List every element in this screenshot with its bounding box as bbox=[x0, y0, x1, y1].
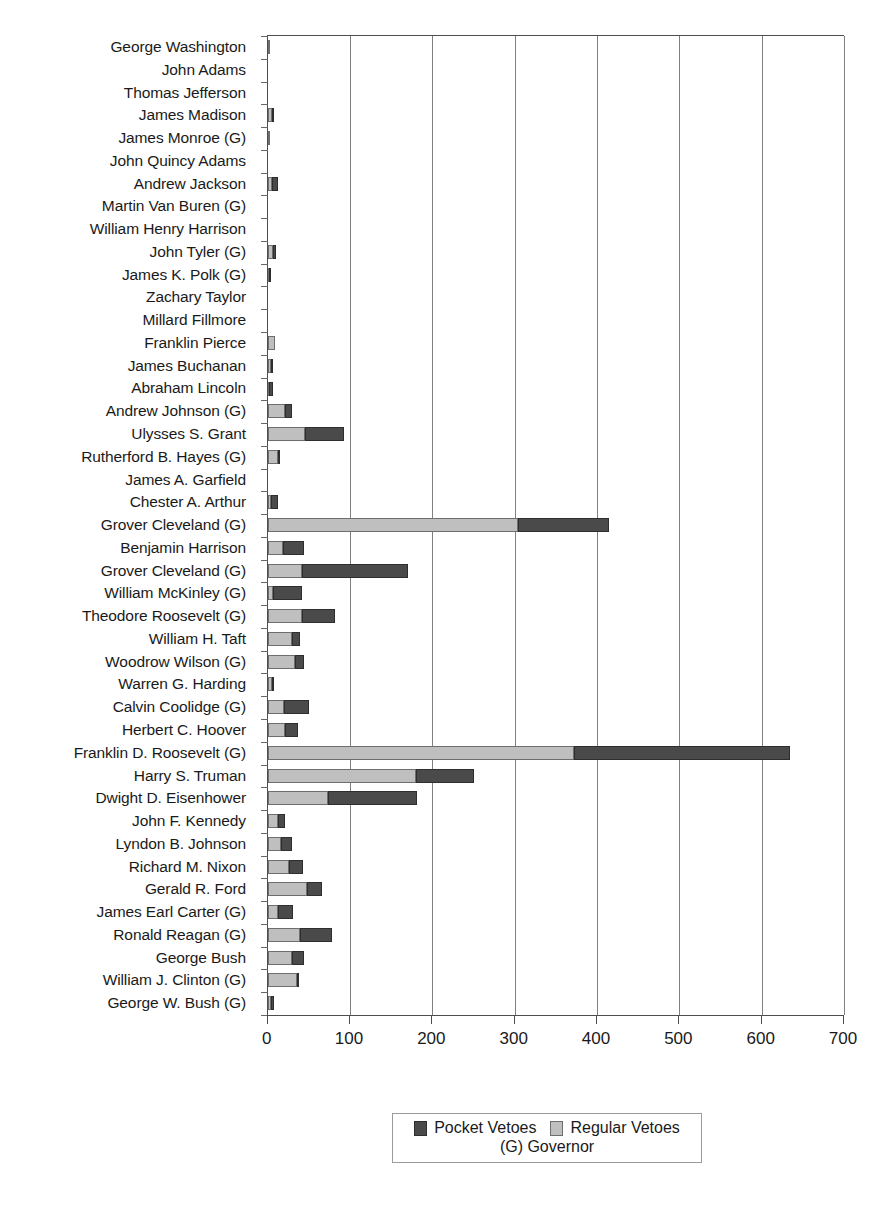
bar-row bbox=[268, 628, 844, 651]
bar-segment-pocket-vetoes bbox=[271, 996, 274, 1010]
category-label: George W. Bush (G) bbox=[0, 992, 252, 1015]
legend-item-regular-vetoes: Regular Vetoes bbox=[550, 1119, 679, 1137]
bar-segment-pocket-vetoes bbox=[273, 586, 303, 600]
y-axis-tick bbox=[261, 833, 268, 834]
y-axis-tick bbox=[261, 469, 268, 470]
bar-segment-regular-vetoes bbox=[268, 882, 308, 896]
bar-segment-regular-vetoes bbox=[268, 951, 292, 965]
veto-chart: George WashingtonJohn AdamsThomas Jeffer… bbox=[0, 0, 893, 1214]
bar-segment-regular-vetoes bbox=[268, 541, 284, 555]
bar-row bbox=[268, 651, 844, 674]
category-label: Grover Cleveland (G) bbox=[0, 560, 252, 583]
y-axis-tick bbox=[261, 241, 268, 242]
y-axis-tick bbox=[261, 605, 268, 606]
bar-row bbox=[268, 127, 844, 150]
category-label: George Bush bbox=[0, 947, 252, 970]
bar-row bbox=[268, 36, 844, 59]
y-axis-tick bbox=[261, 423, 268, 424]
x-axis-tick bbox=[514, 1015, 515, 1024]
y-axis-tick bbox=[261, 332, 268, 333]
category-label: James K. Polk (G) bbox=[0, 264, 252, 287]
bar-segment-pocket-vetoes bbox=[295, 655, 304, 669]
bar-segment-pocket-vetoes bbox=[271, 359, 273, 373]
x-axis-tick bbox=[678, 1015, 679, 1024]
x-axis-tick-label: 600 bbox=[726, 1029, 796, 1049]
y-axis-tick bbox=[261, 127, 268, 128]
legend-label-pocket: Pocket Vetoes bbox=[434, 1119, 536, 1137]
x-axis-tick-label: 100 bbox=[314, 1029, 384, 1049]
category-label: Herbert C. Hoover bbox=[0, 719, 252, 742]
category-label: Millard Fillmore bbox=[0, 309, 252, 332]
y-axis-tick bbox=[261, 378, 268, 379]
bar-segment-pocket-vetoes bbox=[307, 882, 322, 896]
y-axis-tick bbox=[261, 651, 268, 652]
bar-row bbox=[268, 173, 844, 196]
y-axis-tick bbox=[261, 719, 268, 720]
y-axis-tick bbox=[261, 218, 268, 219]
y-axis-tick bbox=[261, 173, 268, 174]
bar-segment-pocket-vetoes bbox=[284, 700, 309, 714]
bar-segment-regular-vetoes bbox=[268, 860, 289, 874]
bar-segment-pocket-vetoes bbox=[283, 541, 304, 555]
bar-segment-pocket-vetoes bbox=[285, 404, 292, 418]
category-label: Harry S. Truman bbox=[0, 765, 252, 788]
category-label: John Adams bbox=[0, 59, 252, 82]
category-label: James Buchanan bbox=[0, 355, 252, 378]
bar-row bbox=[268, 446, 844, 469]
bar-row bbox=[268, 605, 844, 628]
category-label: Zachary Taylor bbox=[0, 286, 252, 309]
category-label: Richard M. Nixon bbox=[0, 856, 252, 879]
x-axis-tick bbox=[843, 1015, 844, 1024]
bar-segment-regular-vetoes bbox=[268, 404, 285, 418]
legend-item-pocket-vetoes: Pocket Vetoes bbox=[414, 1119, 536, 1137]
bar-segment-regular-vetoes bbox=[268, 427, 305, 441]
bar-segment-pocket-vetoes bbox=[271, 495, 278, 509]
bar-row bbox=[268, 856, 844, 879]
bar-row bbox=[268, 878, 844, 901]
x-axis-tick bbox=[431, 1015, 432, 1024]
category-label: Warren G. Harding bbox=[0, 673, 252, 696]
y-axis-tick bbox=[261, 59, 268, 60]
bar-segment-pocket-vetoes bbox=[278, 814, 285, 828]
y-axis-tick bbox=[261, 696, 268, 697]
legend-governor-note: (G) Governor bbox=[401, 1138, 693, 1156]
x-axis-tick-label: 500 bbox=[643, 1029, 713, 1049]
y-axis-tick bbox=[261, 992, 268, 993]
bar-row bbox=[268, 560, 844, 583]
bar-segment-pocket-vetoes bbox=[272, 177, 278, 191]
bar-segment-pocket-vetoes bbox=[289, 860, 303, 874]
bar-segment-regular-vetoes bbox=[268, 928, 300, 942]
bar-segment-regular-vetoes bbox=[268, 837, 281, 851]
category-label: John Tyler (G) bbox=[0, 241, 252, 264]
category-label: William McKinley (G) bbox=[0, 582, 252, 605]
y-axis-tick bbox=[261, 560, 268, 561]
y-axis-tick bbox=[261, 82, 268, 83]
category-label: William J. Clinton (G) bbox=[0, 969, 252, 992]
category-label: Calvin Coolidge (G) bbox=[0, 696, 252, 719]
category-label: Franklin D. Roosevelt (G) bbox=[0, 742, 252, 765]
bar-segment-regular-vetoes bbox=[268, 450, 278, 464]
bar-row bbox=[268, 241, 844, 264]
y-axis-tick bbox=[261, 810, 268, 811]
bar-segment-regular-vetoes bbox=[268, 723, 285, 737]
bar-segment-regular-vetoes bbox=[268, 905, 279, 919]
category-label: Rutherford B. Hayes (G) bbox=[0, 446, 252, 469]
y-axis-tick bbox=[261, 264, 268, 265]
bar-row bbox=[268, 742, 844, 765]
x-axis-line bbox=[267, 1015, 845, 1016]
bar-row bbox=[268, 514, 844, 537]
x-axis-tick bbox=[761, 1015, 762, 1024]
bar-row bbox=[268, 469, 844, 492]
bar-row bbox=[268, 150, 844, 173]
legend-swatch-pocket-icon bbox=[414, 1121, 427, 1136]
bar-row bbox=[268, 582, 844, 605]
bar-row bbox=[268, 992, 844, 1015]
bar-segment-regular-vetoes bbox=[268, 973, 298, 987]
bar-segment-pocket-vetoes bbox=[518, 518, 609, 532]
x-axis-tick-label: 200 bbox=[396, 1029, 466, 1049]
y-axis-tick bbox=[261, 286, 268, 287]
x-axis-tick-label: 0 bbox=[232, 1029, 302, 1049]
category-label: Andrew Johnson (G) bbox=[0, 400, 252, 423]
bar-row bbox=[268, 969, 844, 992]
bar-segment-regular-vetoes bbox=[268, 518, 518, 532]
